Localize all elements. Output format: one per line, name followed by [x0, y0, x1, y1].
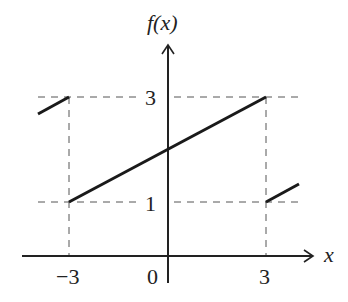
xtick-0: 0	[147, 264, 158, 289]
xtick-neg3: −3	[56, 264, 79, 289]
segment-right	[266, 184, 299, 202]
x-axis-label: x	[323, 242, 334, 267]
function-graph: f(x) x 3 1 −3 0 3	[0, 0, 348, 302]
xtick-3: 3	[259, 264, 270, 289]
segment-left	[38, 97, 69, 114]
ytick-3: 3	[145, 85, 156, 110]
ytick-1: 1	[145, 191, 156, 216]
y-axis-label: f(x)	[147, 10, 178, 35]
